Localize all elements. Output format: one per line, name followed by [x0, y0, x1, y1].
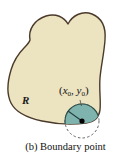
x-subscript: 0	[68, 90, 72, 98]
point-coordinate-label: (x0, y0)	[59, 85, 89, 96]
boundary-point-dot	[79, 118, 84, 123]
region-label-R: R	[22, 95, 29, 106]
region-diagram	[0, 0, 131, 140]
y-subscript: 0	[81, 90, 85, 98]
x-variable: x	[63, 84, 68, 96]
figure-caption: (b) Boundary point	[0, 140, 131, 154]
paren-close: )	[85, 84, 89, 96]
boundary-point-figure: R (x0, y0) (b) Boundary point	[0, 0, 131, 156]
